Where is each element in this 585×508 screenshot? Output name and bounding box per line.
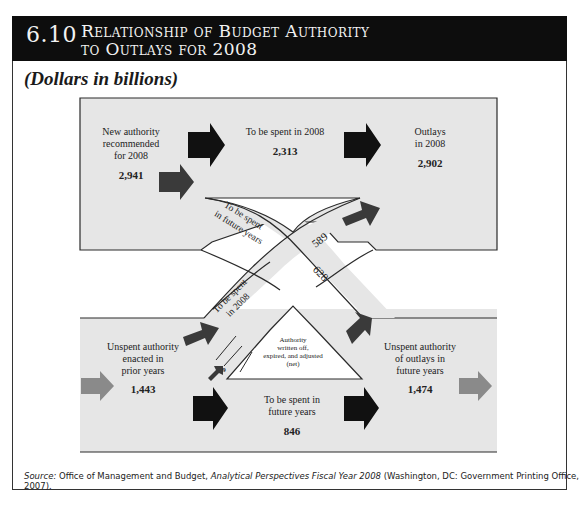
written-off-label-1: Authority bbox=[279, 336, 307, 344]
source-text-1: Office of Management and Budget, bbox=[56, 471, 210, 481]
written-off-label-3: expired, and adjusted bbox=[263, 352, 323, 360]
source-title: Analytical Perspectives Fiscal Year 2008 bbox=[211, 471, 381, 481]
new-authority-label-3: for 2008 bbox=[114, 150, 148, 161]
outlays-label-2: in 2008 bbox=[415, 138, 445, 149]
outlays-label-1: Outlays bbox=[414, 126, 445, 137]
unspent-future-label-2: of outlays in bbox=[395, 353, 445, 364]
spent-2008-label: To be spent in 2008 bbox=[246, 126, 325, 137]
new-authority-label-2: recommended bbox=[103, 138, 160, 149]
source-prefix: Source: bbox=[24, 471, 56, 481]
written-off-label-4: (net) bbox=[286, 360, 300, 368]
unspent-prior-label-2: enacted in bbox=[123, 353, 164, 364]
outlays-value: 2,902 bbox=[418, 157, 443, 169]
unspent-future-label-3: future years bbox=[396, 365, 444, 376]
new-authority-value: 2,941 bbox=[119, 169, 144, 181]
new-authority-label-1: New authority bbox=[102, 126, 160, 137]
spent-future-label-1: To be spent in bbox=[264, 394, 320, 405]
budget-flow-diagram: New authority recommended for 2008 2,941… bbox=[0, 0, 585, 508]
unspent-future-value: 1,474 bbox=[408, 383, 433, 395]
spent-2008-value: 2,313 bbox=[273, 145, 298, 157]
unspent-prior-label-1: Unspent authority bbox=[107, 341, 179, 352]
written-off-label-2: written off, bbox=[277, 344, 309, 352]
unspent-prior-value: 1,443 bbox=[131, 383, 156, 395]
unspent-future-label-1: Unspent authority bbox=[384, 341, 456, 352]
source-note: Source: Office of Management and Budget,… bbox=[24, 471, 585, 491]
spent-future-value: 846 bbox=[284, 425, 301, 437]
written-off-value: 9 bbox=[222, 366, 226, 374]
unspent-prior-label-3: prior years bbox=[121, 365, 164, 376]
spent-future-label-2: future years bbox=[268, 406, 316, 417]
